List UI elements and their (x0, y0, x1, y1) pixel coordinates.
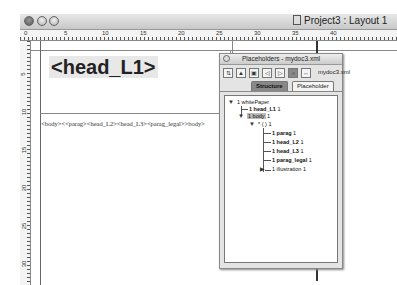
tree-node-count: 1 (300, 139, 303, 145)
tree-line (263, 151, 271, 152)
tree-node-count: 1 (267, 113, 270, 119)
ruler-label: 40 (330, 30, 337, 36)
tree-node-label: 1 parag_legal (272, 157, 307, 163)
palette-tabs: Structure Placeholder (220, 80, 342, 92)
tree-node-label: 1 body (247, 113, 266, 119)
palette-close-button[interactable] (223, 55, 230, 62)
tree-node-selected[interactable]: 1 body 1 (247, 113, 270, 120)
tree-node-count: 1 (303, 166, 306, 172)
ruler-label: 10 (102, 30, 109, 36)
tree-node[interactable]: 1 parag_legal 1 (272, 157, 312, 164)
ruler-label: 25 (21, 223, 27, 230)
tree-node[interactable]: 1 parag 1 (272, 130, 296, 137)
palette-filename: mydoc3.xml (318, 69, 350, 75)
ruler-label: 35 (292, 30, 299, 36)
tree-node[interactable]: 1 whitePaper (237, 99, 269, 106)
add-tag-icon[interactable]: ⇅ (223, 68, 233, 78)
ruler-label: 5 (64, 30, 67, 36)
move-left-icon[interactable]: ◁ (262, 68, 272, 78)
tree-node[interactable]: 1 illustration 1 (272, 166, 306, 173)
tree-line (263, 160, 271, 161)
document-icon (293, 15, 301, 25)
window-title-text: Project3 : Layout 1 (304, 15, 387, 26)
ruler-label: 30 (254, 30, 261, 36)
rescan-icon[interactable]: ⌕ (288, 68, 298, 78)
tree-node[interactable]: 1 head_L3 1 (272, 148, 304, 155)
tree-line (263, 142, 271, 143)
ruler-label: 30 (21, 261, 27, 268)
structure-tree[interactable]: ▼ 1 whitePaper 1 head_L1 1 ▼ 1 body 1 ▼ … (224, 95, 338, 263)
tab-structure[interactable]: Structure (251, 81, 288, 91)
insert-node-icon[interactable]: ▲ (236, 68, 246, 78)
close-button[interactable] (24, 16, 34, 26)
tree-node-label: 1 head_L2 (272, 139, 299, 145)
tree-line (241, 109, 248, 110)
tree-node[interactable]: 1 head_L2 1 (272, 139, 304, 146)
ruler-label: 20 (21, 185, 27, 192)
ruler-label: 20 (178, 30, 185, 36)
ruler-label: 15 (140, 30, 147, 36)
move-right-icon[interactable]: ▷ (275, 68, 285, 78)
tab-placeholder[interactable]: Placeholder (292, 81, 334, 91)
zoom-button[interactable] (49, 16, 59, 26)
link-icon[interactable]: ↔ (301, 68, 311, 78)
title-bar[interactable]: Project3 : Layout 1 (20, 14, 397, 30)
ruler-label: 10 (21, 109, 27, 116)
ruler-label: 25 (216, 30, 223, 36)
ruler-label: 15 (21, 147, 27, 154)
tree-node-label: 1 parag (272, 130, 292, 136)
vertical-ruler[interactable]: 5 10 15 20 25 30 (20, 41, 31, 285)
insert-child-icon[interactable]: ▣ (249, 68, 259, 78)
window-title: Project3 : Layout 1 (293, 15, 387, 26)
tree-node-count: 1 (293, 130, 296, 136)
tree-node-count: 1 (300, 148, 303, 154)
tree-node[interactable]: 1 head_L1 1 (249, 106, 281, 113)
expand-triangle-icon[interactable]: ▼ (228, 99, 234, 106)
tree-node[interactable]: * ( ) 1 (258, 121, 271, 128)
tree-node-label: 1 illustration (272, 166, 301, 172)
palette-title: Placeholders - mydoc3.xml (242, 55, 320, 62)
horizontal-ruler[interactable]: 0 5 10 15 20 25 30 35 40 (20, 30, 397, 41)
tree-node-count: 1 (309, 157, 312, 163)
expand-triangle-icon[interactable]: ▼ (249, 121, 255, 128)
tree-node-label: * ( ) (258, 121, 267, 127)
palette-toolbar: ⇅ ▲ ▣ ◁ ▷ ⌕ ↔ mydoc3.xml (220, 65, 342, 80)
tree-node-count: 1 (277, 106, 280, 112)
palette-title-bar[interactable]: Placeholders - mydoc3.xml (220, 54, 342, 65)
tree-node-count: 1 (268, 121, 271, 127)
ruler-label: 5 (20, 72, 26, 75)
body-placeholder[interactable]: <body><<parag><head_L2><head_L3><parag_l… (41, 120, 205, 127)
expand-triangle-icon[interactable]: ▼ (238, 113, 244, 120)
tree-line (263, 133, 271, 134)
tree-node-label: 1 head_L1 (249, 106, 276, 112)
tree-line (265, 170, 271, 171)
ruler-label: 0 (24, 30, 27, 36)
tree-node-label: 1 head_L3 (272, 148, 299, 154)
minimize-button[interactable] (37, 16, 47, 26)
placeholders-palette: Placeholders - mydoc3.xml ⇅ ▲ ▣ ◁ ▷ ⌕ ↔ … (219, 53, 343, 269)
heading-placeholder[interactable]: <head_L1> (49, 56, 158, 78)
